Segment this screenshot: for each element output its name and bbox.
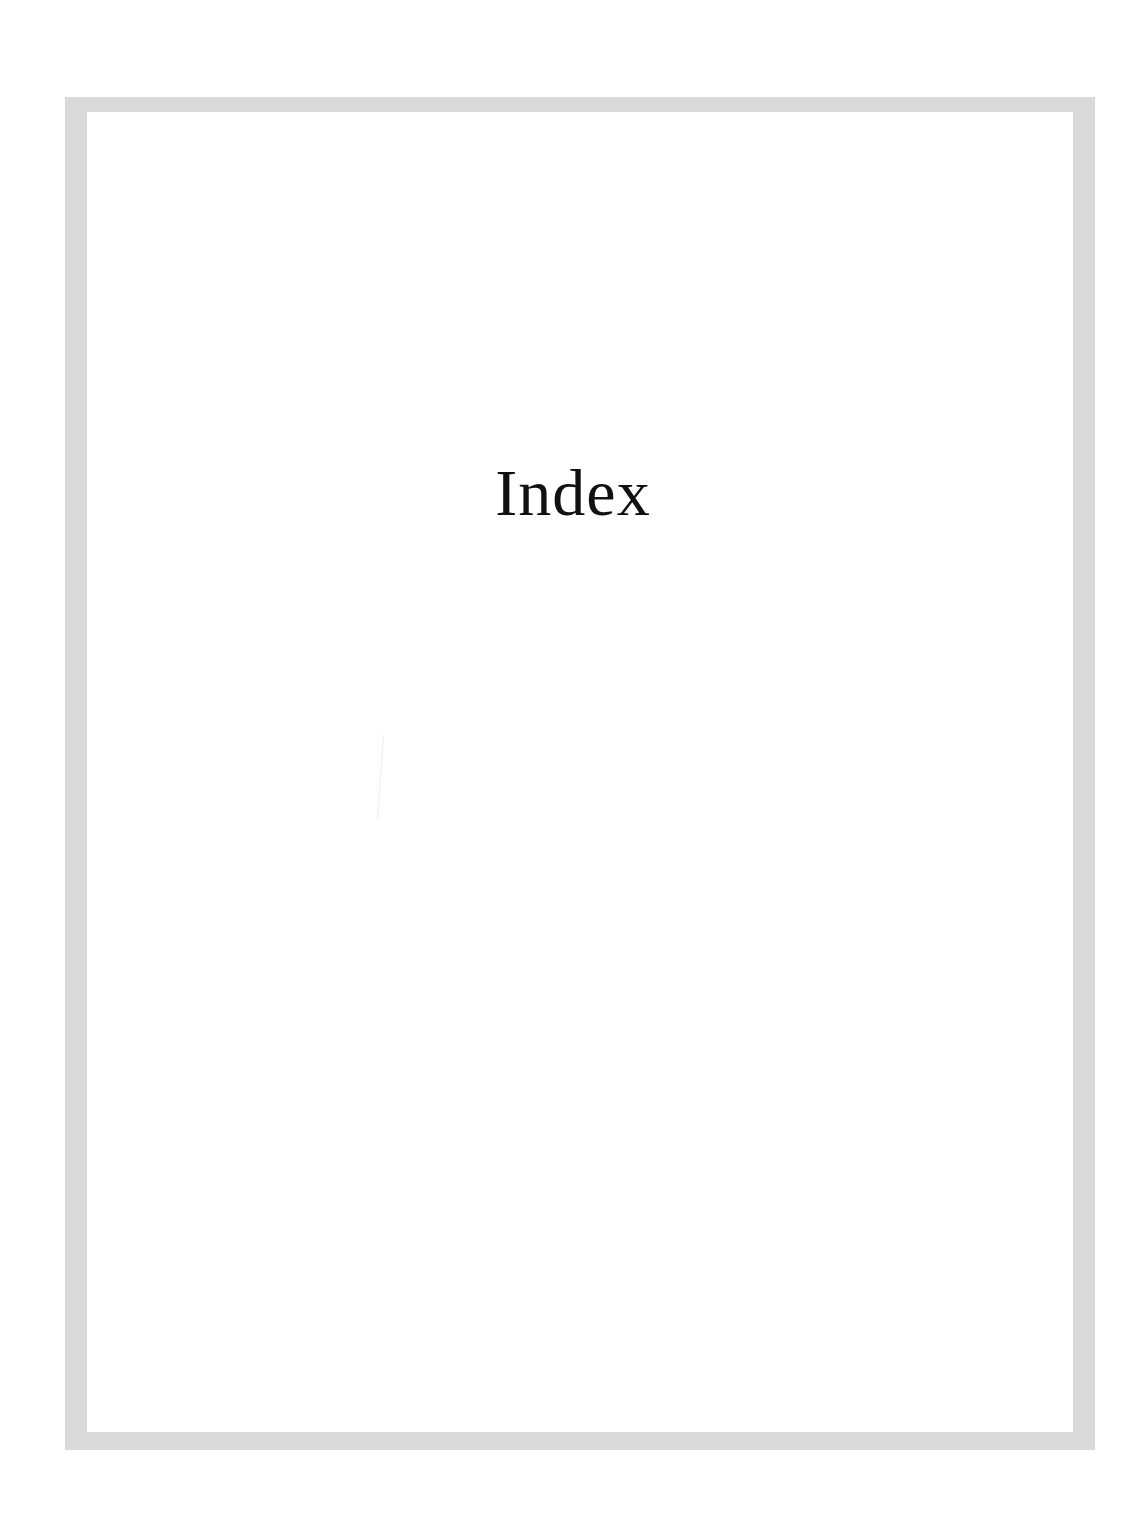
page-title: Index: [0, 455, 1146, 531]
page-frame: [65, 97, 1095, 1450]
